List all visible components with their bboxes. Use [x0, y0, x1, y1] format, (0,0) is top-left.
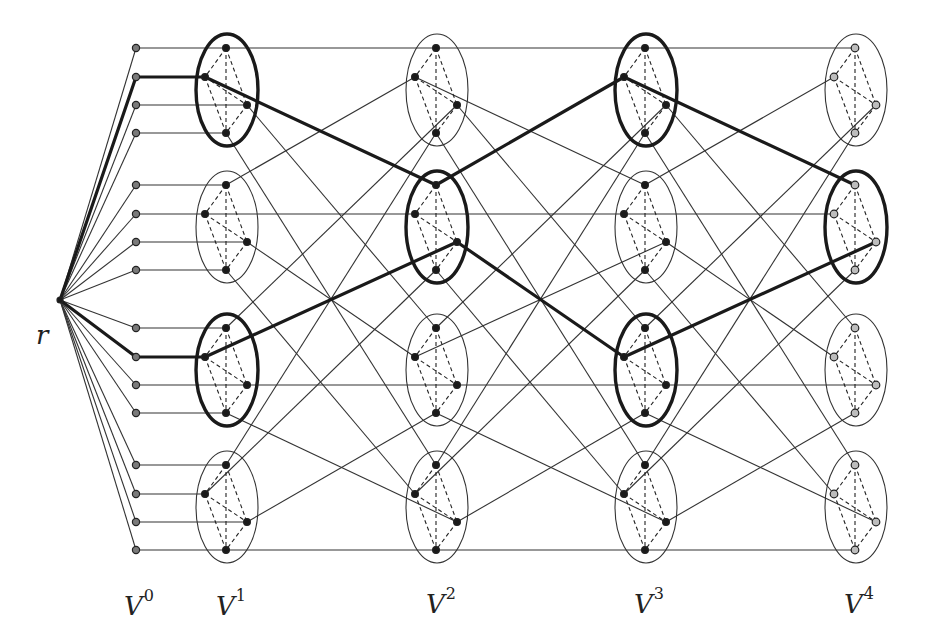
root-edge	[60, 300, 136, 522]
layer2-node	[433, 325, 440, 332]
dashed-edge	[834, 465, 855, 494]
layer-label-v1: V1	[216, 592, 246, 619]
layer-label-sup: 1	[236, 586, 246, 605]
layer0-node	[132, 210, 139, 217]
layer3-node	[642, 410, 649, 417]
layer3-node	[621, 354, 628, 361]
layer-label-base: V	[124, 591, 143, 621]
layer2-node	[454, 239, 461, 246]
layer3-node	[642, 325, 649, 332]
layer4-node	[851, 546, 859, 554]
dashed-edge	[205, 185, 226, 214]
dashed-edge	[624, 494, 645, 550]
layer4-node	[872, 518, 880, 526]
layer2-node	[454, 382, 461, 389]
layer3-node	[642, 462, 649, 469]
layer3-node	[642, 182, 649, 189]
layer2-node	[433, 462, 440, 469]
layer-label-base: V	[844, 589, 863, 619]
dashed-edge	[834, 328, 855, 357]
dashed-edge	[624, 185, 645, 214]
layer1-node	[223, 547, 230, 554]
layer4-node	[830, 490, 838, 498]
dashed-edge	[226, 385, 247, 413]
dashed-edge	[624, 465, 645, 494]
dashed-edge	[855, 385, 876, 413]
dashed-edge	[855, 522, 876, 550]
dashed-edge	[415, 465, 436, 494]
layer-label-v0: V0	[124, 592, 154, 619]
layer1-node	[202, 211, 209, 218]
layer3-node	[642, 547, 649, 554]
layer3-node	[621, 491, 628, 498]
layer4-node	[851, 266, 859, 274]
inter-layer-edge	[247, 413, 436, 522]
dashed-edge	[415, 494, 436, 550]
layer2-node	[412, 211, 419, 218]
layer1-node	[223, 462, 230, 469]
layer2-node	[412, 74, 419, 81]
dashed-edge	[834, 77, 855, 133]
layer3-node	[621, 74, 628, 81]
dashed-edge	[645, 522, 666, 550]
dashed-edge	[834, 48, 855, 77]
dashed-edge	[645, 242, 666, 270]
dashed-edge	[855, 48, 876, 105]
layer4-node	[830, 353, 838, 361]
inter-layer-edge	[666, 413, 855, 522]
layer1-node	[202, 491, 209, 498]
layer2-node	[433, 267, 440, 274]
layer2-node	[433, 410, 440, 417]
layer2-node	[433, 547, 440, 554]
layer2-node	[433, 130, 440, 137]
dashed-edge	[436, 522, 457, 550]
layer-label-sup: 3	[654, 584, 664, 603]
dashed-edge	[226, 105, 247, 133]
layer0-node	[132, 238, 139, 245]
layer2-node	[454, 102, 461, 109]
layer-label-v3: V3	[634, 590, 664, 617]
layer0-node	[132, 381, 139, 388]
layer3-node	[621, 211, 628, 218]
dashed-edge	[226, 465, 247, 522]
layer2-node	[412, 354, 419, 361]
layer4-node	[851, 324, 859, 332]
dashed-edge	[834, 214, 855, 270]
root-edge	[60, 300, 136, 385]
layered-cluster-network-diagram	[0, 0, 926, 644]
root-label: r	[36, 322, 48, 348]
layer2-node	[433, 45, 440, 52]
layer0-node	[132, 490, 139, 497]
layer3-node	[663, 239, 670, 246]
dashed-edge	[624, 214, 645, 270]
layer4-node	[872, 101, 880, 109]
layer0-node	[132, 44, 139, 51]
dashed-edge	[415, 214, 436, 270]
dashed-edge	[624, 48, 645, 77]
layer1-node	[202, 354, 209, 361]
dashed-edge	[645, 385, 666, 413]
layer4-node	[851, 461, 859, 469]
dashed-edge	[436, 48, 457, 105]
dashed-edge	[855, 328, 876, 385]
layer1-node	[223, 325, 230, 332]
layer3-node	[642, 130, 649, 137]
dashed-edge	[415, 48, 436, 77]
inter-layer-edge	[415, 270, 645, 494]
layer-label-sup: 0	[144, 586, 154, 605]
layer4-node	[830, 73, 838, 81]
layer1-node	[223, 182, 230, 189]
dashed-edge	[645, 328, 666, 385]
layer1-node	[202, 74, 209, 81]
layer-label-base: V	[216, 591, 235, 621]
layer1-node	[244, 239, 251, 246]
dashed-edge	[645, 105, 666, 133]
graph-nodes	[57, 44, 880, 554]
layer4-node	[851, 129, 859, 137]
layer3-node	[663, 382, 670, 389]
layer0-node	[132, 518, 139, 525]
dashed-edge	[226, 328, 247, 385]
dashed-edge	[436, 105, 457, 133]
layer0-node	[132, 546, 139, 553]
layer-label-base: V	[426, 589, 445, 619]
